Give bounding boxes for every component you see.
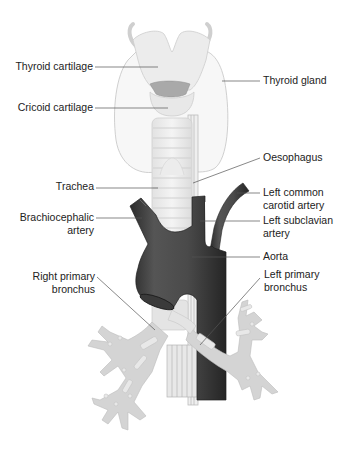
label-left-primary-bronchus: Left primary bronchus bbox=[264, 268, 319, 293]
anatomy-diagram: Thyroid cartilage Thyroid gland Cricoid … bbox=[0, 0, 355, 455]
label-text: Aorta bbox=[263, 250, 288, 263]
label-text: Thyroid cartilage bbox=[15, 60, 93, 73]
label-aorta: Aorta bbox=[263, 250, 288, 263]
label-text: Right primary bbox=[33, 270, 95, 283]
label-left-common-carotid-artery: Left common carotid artery bbox=[263, 186, 324, 211]
label-cricoid-cartilage: Cricoid cartilage bbox=[18, 101, 93, 114]
label-text: bronchus bbox=[264, 281, 319, 294]
label-text: Oesophagus bbox=[263, 151, 323, 164]
label-text: artery bbox=[263, 227, 333, 240]
label-left-subclavian-artery: Left subclavian artery bbox=[263, 214, 333, 239]
label-trachea: Trachea bbox=[56, 180, 94, 193]
label-text: Left primary bbox=[264, 268, 319, 281]
label-text: Left subclavian bbox=[263, 214, 333, 227]
label-text: Brachiocephalic bbox=[20, 211, 94, 224]
label-text: carotid artery bbox=[263, 199, 324, 212]
right-bronchial-tree bbox=[88, 322, 168, 430]
label-text: Trachea bbox=[56, 180, 94, 193]
label-thyroid-cartilage: Thyroid cartilage bbox=[15, 60, 93, 73]
label-right-primary-bronchus: Right primary bronchus bbox=[33, 270, 95, 295]
label-text: Cricoid cartilage bbox=[18, 101, 93, 114]
label-oesophagus: Oesophagus bbox=[263, 151, 323, 164]
label-brachiocephalic-artery: Brachiocephalic artery bbox=[20, 211, 94, 236]
label-text: Thyroid gland bbox=[263, 74, 327, 87]
oesophagus-lower bbox=[167, 345, 197, 397]
label-text: bronchus bbox=[33, 283, 95, 296]
label-thyroid-gland: Thyroid gland bbox=[263, 74, 327, 87]
label-text: Left common bbox=[263, 186, 324, 199]
label-text: artery bbox=[20, 224, 94, 237]
